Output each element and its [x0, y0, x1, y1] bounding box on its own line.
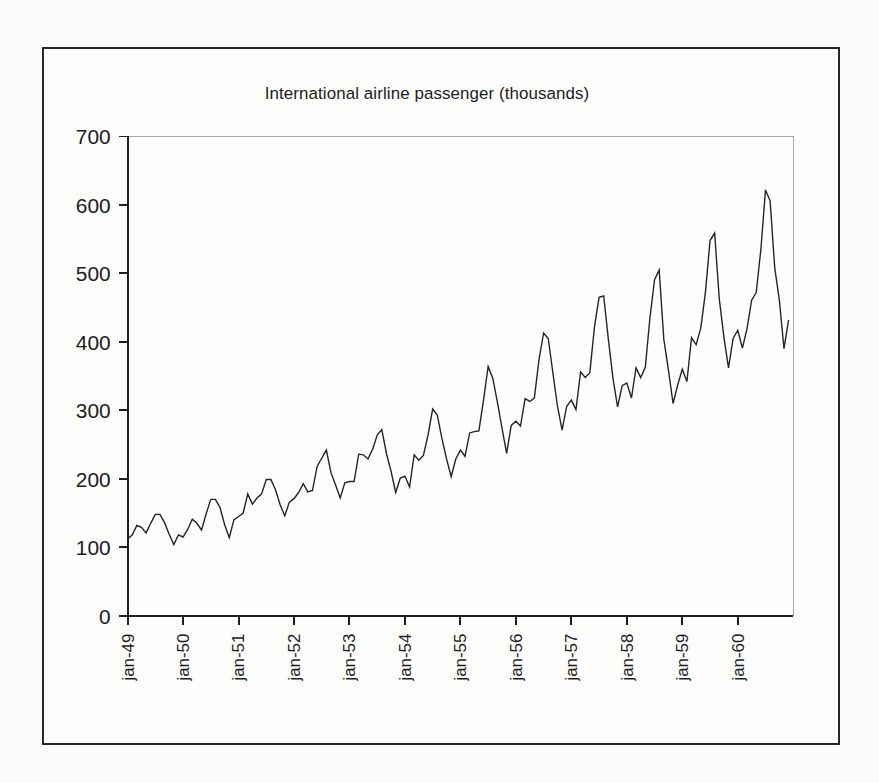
x-axis-tick-label: jan-55	[451, 634, 470, 682]
chart-title: International airline passenger (thousan…	[265, 84, 590, 103]
chart-canvas: International airline passenger (thousan…	[44, 49, 838, 743]
y-axis-tick-label: 400	[76, 331, 111, 354]
y-axis-tick-label: 600	[76, 194, 111, 217]
chart-figure: International airline passenger (thousan…	[42, 47, 840, 745]
x-axis-tick-label: jan-56	[507, 634, 526, 682]
x-axis-tick-label: jan-57	[562, 634, 581, 682]
x-axis-tick-label: jan-51	[229, 634, 248, 682]
x-axis-tick-label: jan-52	[285, 634, 304, 682]
y-axis-tick-label: 500	[76, 262, 111, 285]
y-axis-tick-label: 300	[76, 399, 111, 422]
x-axis-tick-label: jan-54	[396, 634, 415, 682]
y-axis-tick-label: 700	[76, 125, 111, 148]
x-axis-tick-label: jan-53	[340, 634, 359, 682]
x-axis-tick-label: jan-60	[729, 634, 748, 682]
x-axis-tick-label: jan-49	[119, 634, 138, 682]
figure-background	[44, 49, 838, 743]
y-axis-tick-label: 0	[99, 605, 111, 628]
y-axis-tick-label: 100	[76, 536, 111, 559]
x-axis-tick-label: jan-58	[618, 634, 637, 682]
x-axis-tick-label: jan-59	[673, 634, 692, 682]
x-axis-tick-label: jan-50	[174, 634, 193, 682]
y-axis-tick-label: 200	[76, 468, 111, 491]
